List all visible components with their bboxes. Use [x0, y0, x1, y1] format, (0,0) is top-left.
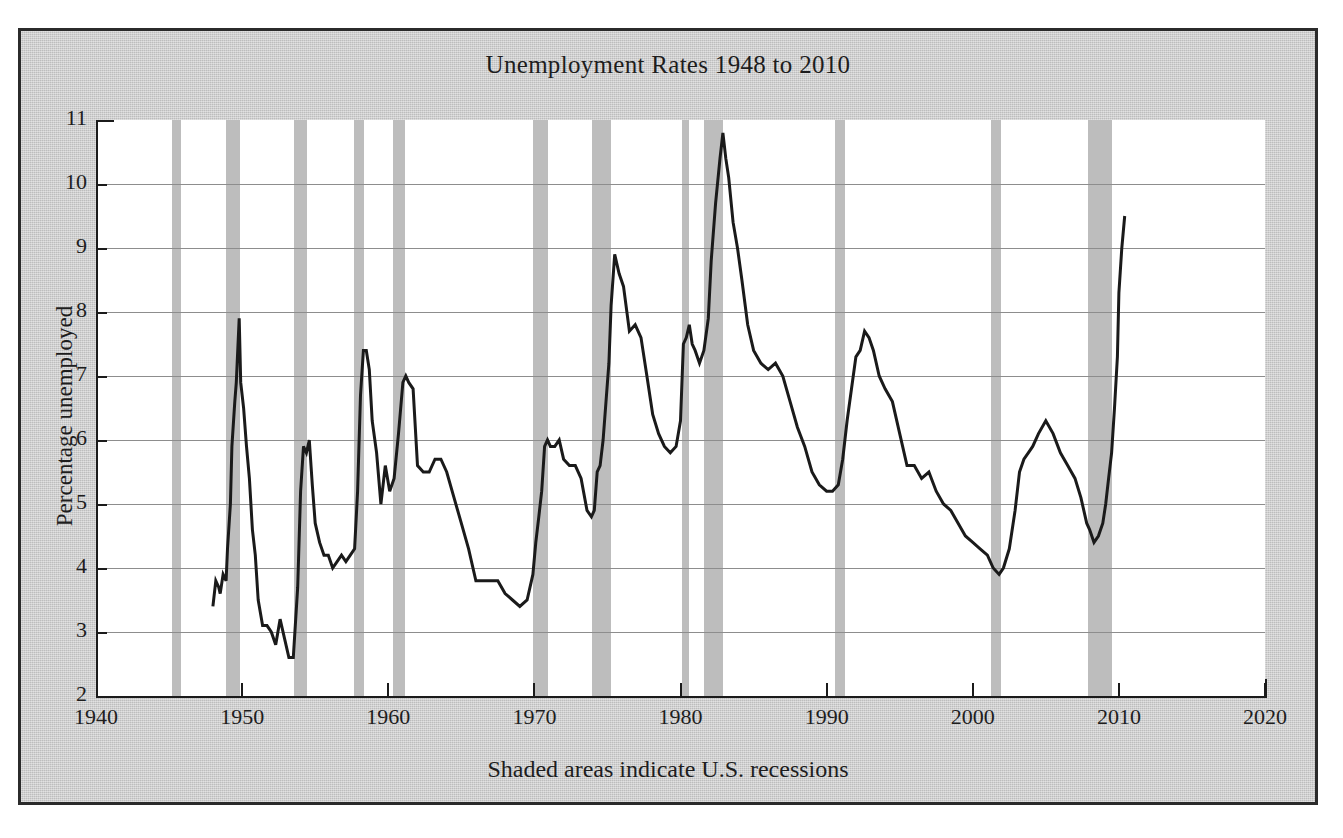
y-tick-mark	[96, 696, 107, 698]
y-tick-label: 6	[41, 425, 87, 451]
y-tick-label: 11	[41, 105, 87, 131]
y-tick-label: 3	[41, 617, 87, 643]
x-tick-label: 1990	[772, 704, 882, 730]
y-tick-label: 9	[41, 233, 87, 259]
x-tick-mark	[241, 683, 243, 697]
x-axis-caption: Shaded areas indicate U.S. recessions	[21, 756, 1315, 783]
y-tick-label: 8	[41, 297, 87, 323]
y-tick-label: 5	[41, 489, 87, 515]
x-tick-label: 1970	[479, 704, 589, 730]
x-tick-label: 1940	[41, 704, 151, 730]
y-tick-mark	[96, 120, 107, 122]
x-tick-mark	[1118, 683, 1120, 697]
x-tick-label: 1950	[187, 704, 297, 730]
plot-area	[96, 120, 1265, 696]
y-tick-mark	[96, 376, 107, 378]
y-tick-mark	[96, 440, 107, 442]
y-tick-mark	[96, 632, 107, 634]
scanned-page: Unemployment Rates 1948 to 2010 Percenta…	[0, 0, 1343, 838]
x-tick-label: 1960	[333, 704, 443, 730]
x-tick-mark	[387, 683, 389, 697]
x-tick-mark	[533, 683, 535, 697]
y-tick-mark	[96, 184, 107, 186]
y-axis-title: Percentage unemployed	[52, 136, 78, 696]
figure-frame: Unemployment Rates 1948 to 2010 Percenta…	[18, 28, 1318, 805]
x-tick-mark	[972, 683, 974, 697]
y-tick-mark	[96, 312, 107, 314]
y-tick-mark	[96, 248, 107, 250]
y-tick-label: 10	[41, 169, 87, 195]
x-tick-label: 2000	[918, 704, 1028, 730]
y-axis-line	[96, 120, 98, 697]
unemployment-series-line	[96, 120, 1265, 696]
x-tick-mark	[826, 683, 828, 697]
y-tick-mark	[96, 568, 107, 570]
y-tick-label: 4	[41, 553, 87, 579]
x-tick-mark	[680, 683, 682, 697]
x-axis-line	[96, 696, 1267, 698]
x-tick-label: 2020	[1210, 704, 1320, 730]
y-tick-mark	[96, 504, 107, 506]
x-tick-mark	[1264, 683, 1266, 697]
x-tick-label: 2010	[1064, 704, 1174, 730]
x-tick-label: 1980	[626, 704, 736, 730]
y-tick-label: 7	[41, 361, 87, 387]
chart-title: Unemployment Rates 1948 to 2010	[21, 51, 1315, 79]
